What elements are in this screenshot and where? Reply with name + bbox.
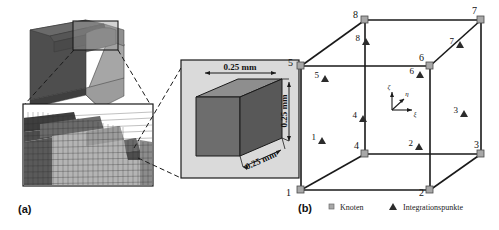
node-marker-3 [477,150,484,157]
node-number-4: 4 [354,140,359,151]
node-marker-5 [297,62,304,69]
node-number-8: 8 [353,9,358,20]
ip-number-1: 1 [312,132,317,142]
node-marker-2 [426,186,433,193]
node-marker-6 [426,62,433,69]
dimension-height-label: 0.25 mm [279,94,289,127]
node-number-5: 5 [288,57,293,68]
panel-b-label: (b) [298,202,312,214]
figure-container: 0.25 mm 0.25 mm 0.25 mm (a) [0,0,499,230]
panel-a-label: (a) [18,203,32,215]
node-marker-7 [477,16,484,23]
node-marker-4 [361,150,368,157]
figure-svg: 0.25 mm 0.25 mm 0.25 mm (a) [0,0,499,230]
roi-box-specimen [73,21,118,50]
axis-label-xi: ξ [414,110,417,118]
axis-label-eta: η [405,90,409,98]
ip-number-8: 8 [356,33,361,43]
cube-front-face [196,97,240,156]
ip-number-7: 7 [450,36,455,46]
node-number-2: 2 [419,187,424,198]
refined-mesh-detail [23,104,153,186]
node-marker-1 [297,186,304,193]
ip-number-5: 5 [315,70,320,80]
node-number-7: 7 [472,5,477,16]
ip-number-4: 4 [353,110,358,120]
node-number-1: 1 [286,187,291,198]
single-cubic-element: 0.25 mm 0.25 mm 0.25 mm [181,60,299,178]
node-number-6: 6 [419,52,424,63]
legend-node-square-icon [329,204,334,209]
dimension-width-label: 0.25 mm [224,62,257,72]
specimen-3d-block [30,20,124,108]
legend-node-label: Knoten [340,203,364,212]
node-marker-8 [361,16,368,23]
legend-integration-point-label: Integrationspunkte [403,203,463,212]
node-number-3: 3 [474,139,479,150]
ip-number-6: 6 [410,66,415,76]
ip-number-2: 2 [409,138,414,148]
ip-number-3: 3 [454,105,459,115]
